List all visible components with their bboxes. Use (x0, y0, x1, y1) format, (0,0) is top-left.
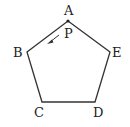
label-b: B (13, 45, 23, 60)
pentagon-diagram: A B E C D P (0, 0, 130, 127)
label-e: E (112, 45, 122, 60)
label-a: A (63, 3, 74, 18)
label-c: C (34, 105, 44, 120)
label-p: P (64, 26, 73, 41)
label-d: D (93, 105, 103, 120)
point-p-marker (66, 19, 69, 22)
